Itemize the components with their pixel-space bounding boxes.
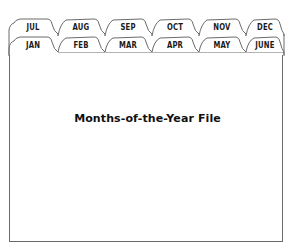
tab-mar[interactable]: MAR (111, 40, 145, 50)
tab-may[interactable]: MAY (205, 40, 239, 50)
file-card-body (9, 54, 283, 242)
tab-sep[interactable]: SEP (111, 22, 145, 32)
tab-oct[interactable]: OCT (158, 22, 192, 32)
tab-dec[interactable]: DEC (248, 22, 282, 32)
tab-jul[interactable]: JUL (16, 22, 50, 32)
tab-apr[interactable]: APR (158, 40, 192, 50)
tab-nov[interactable]: NOV (205, 22, 239, 32)
tab-june[interactable]: JUNE (248, 40, 282, 50)
tab-jan[interactable]: JAN (16, 40, 50, 50)
file-title: Months-of-the-Year File (0, 112, 295, 125)
tab-aug[interactable]: AUG (64, 22, 98, 32)
tab-feb[interactable]: FEB (64, 40, 98, 50)
